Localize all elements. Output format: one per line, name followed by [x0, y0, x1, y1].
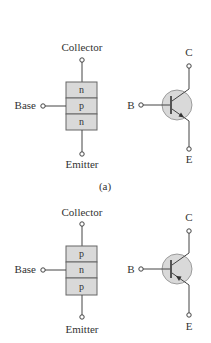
- c-label: C: [185, 211, 192, 223]
- layer-top-label: p: [79, 248, 84, 259]
- b-terminal: [139, 267, 143, 271]
- emitter-terminal: [80, 315, 84, 319]
- b-terminal: [139, 103, 143, 107]
- collector-label: Collector: [62, 41, 103, 53]
- base-label: Base: [15, 99, 37, 111]
- emitter-label: Emitter: [66, 158, 99, 170]
- layer-top-label: n: [79, 84, 84, 95]
- b-label: B: [127, 99, 134, 111]
- emitter-label: Emitter: [66, 323, 99, 335]
- base-label: Base: [15, 263, 37, 275]
- emitter-terminal: [80, 152, 84, 156]
- c-label: C: [185, 46, 192, 58]
- e-label: E: [186, 153, 193, 165]
- figure-caption-a: (a): [99, 180, 112, 193]
- transistor-figure: Collector n p n Base Emitter C B E (a) C…: [0, 0, 211, 343]
- collector-terminal: [80, 58, 84, 62]
- collector-label: Collector: [62, 206, 103, 218]
- c-terminal: [187, 229, 191, 233]
- collector-terminal: [80, 222, 84, 226]
- pnp-symbol: C B E: [127, 211, 192, 332]
- layer-bottom-label: n: [79, 116, 84, 127]
- e-terminal: [187, 313, 191, 317]
- b-label: B: [127, 263, 134, 275]
- layer-middle-label: n: [79, 264, 84, 275]
- c-terminal: [187, 64, 191, 68]
- base-terminal: [41, 104, 45, 108]
- npn-symbol: C B E: [127, 46, 192, 165]
- base-terminal: [41, 268, 45, 272]
- layer-bottom-label: p: [79, 281, 84, 292]
- e-label: E: [186, 320, 193, 332]
- pnp-layer-block: Collector p n p Base Emitter: [15, 206, 103, 335]
- e-terminal: [187, 147, 191, 151]
- npn-layer-block: Collector n p n Base Emitter: [15, 41, 103, 170]
- layer-middle-label: p: [79, 100, 84, 111]
